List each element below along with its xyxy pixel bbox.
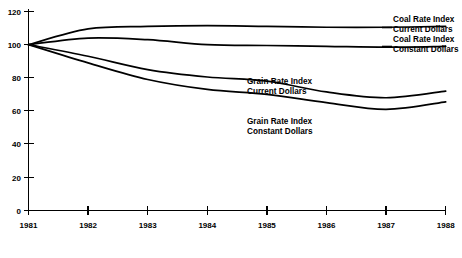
x-tick-label-1987: 1987	[377, 221, 395, 230]
annotation-leaders	[382, 28, 392, 47]
series-line-grain-current	[29, 45, 446, 98]
annotation-coal-current-line1: Coal Rate Index	[393, 15, 455, 24]
annotation-coal-current-line2: Current Dollars	[393, 25, 453, 34]
y-tick-label-60: 60	[12, 107, 21, 116]
annotation-grain-constant-line1: Grain Rate Index	[247, 117, 313, 126]
x-tick-label-1983: 1983	[139, 221, 157, 230]
x-tick-label-1986: 1986	[318, 221, 336, 230]
x-tick-label-1981: 1981	[20, 221, 38, 230]
rate-index-line-chart: 120 100 80 60 40 20 0 1981 1982 1983 198…	[0, 0, 462, 258]
annotation-coal-current: Coal Rate Index Current Dollars	[393, 15, 455, 34]
x-tick-label-1982: 1982	[79, 221, 97, 230]
y-tick-label-0: 0	[17, 207, 22, 216]
x-tick-label-1984: 1984	[198, 221, 216, 230]
annotation-coal-constant-line2: Constant Dollars	[393, 45, 459, 54]
y-tick-label-80: 80	[12, 74, 21, 83]
x-tick-label-1988: 1988	[437, 221, 455, 230]
y-tick-label-40: 40	[12, 140, 21, 149]
series-line-coal-current	[29, 26, 446, 45]
series-group	[29, 26, 446, 110]
annotation-grain-current-line2: Current Dollars	[247, 87, 307, 96]
annotation-grain-current-line1: Grain Rate Index	[247, 77, 313, 86]
y-tick-label-20: 20	[12, 174, 21, 183]
x-tick-label-1985: 1985	[258, 221, 276, 230]
annotation-grain-constant: Grain Rate Index Constant Dollars	[247, 117, 313, 136]
annotation-grain-constant-line2: Constant Dollars	[247, 127, 313, 136]
y-tick-label-100: 100	[8, 41, 22, 50]
annotation-coal-constant-line1: Coal Rate Index	[393, 35, 455, 44]
series-line-grain-constant	[29, 45, 446, 110]
annotation-coal-constant: Coal Rate Index Constant Dollars	[393, 35, 459, 54]
annotation-grain-current: Grain Rate Index Current Dollars	[247, 77, 313, 96]
y-tick-label-120: 120	[8, 8, 22, 17]
chart-canvas: 120 100 80 60 40 20 0 1981 1982 1983 198…	[0, 0, 462, 258]
